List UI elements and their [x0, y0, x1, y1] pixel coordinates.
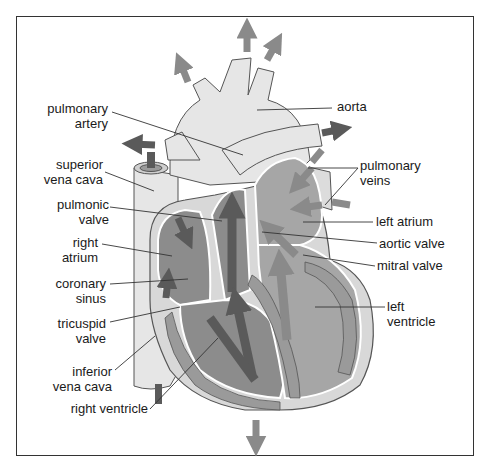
label-aortic-valve: aortic valve: [379, 237, 445, 252]
label-line: mitral valve: [377, 259, 443, 274]
label-line: tricuspid: [20, 317, 106, 332]
label-line: atrium: [20, 251, 98, 266]
label-right-atrium: right atrium: [20, 236, 98, 265]
label-aorta: aorta: [337, 100, 367, 115]
label-left-atrium: left atrium: [376, 215, 433, 230]
label-inferior-vena-cava: inferior vena cava: [20, 365, 112, 394]
label-left-ventricle: left ventricle: [387, 300, 435, 329]
label-pulmonic-valve: pulmonic valve: [20, 198, 109, 227]
label-line: vena cava: [20, 173, 103, 188]
label-tricuspid-valve: tricuspid valve: [20, 317, 106, 346]
label-line: left: [387, 300, 435, 315]
label-line: veins: [360, 174, 421, 189]
label-line: coronary: [20, 277, 106, 292]
label-line: inferior: [20, 365, 112, 380]
label-line: sinus: [20, 292, 106, 307]
label-right-ventricle: right ventricle: [20, 402, 148, 417]
label-pulmonary-artery: pulmonary artery: [20, 102, 108, 131]
label-line: vena cava: [20, 380, 112, 395]
label-line: artery: [20, 117, 108, 132]
label-line: pulmonary: [20, 102, 108, 117]
label-line: right ventricle: [20, 402, 148, 417]
label-superior-vena-cava: superior vena cava: [20, 158, 103, 187]
label-line: superior: [20, 158, 103, 173]
label-line: valve: [20, 332, 106, 347]
label-line: right: [20, 236, 98, 251]
label-coronary-sinus: coronary sinus: [20, 277, 106, 306]
label-line: ventricle: [387, 315, 435, 330]
label-pulmonary-veins: pulmonary veins: [360, 159, 421, 188]
label-line: aorta: [337, 100, 367, 115]
label-line: pulmonic: [20, 198, 109, 213]
label-line: valve: [20, 213, 109, 228]
label-mitral-valve: mitral valve: [377, 259, 443, 274]
label-line: pulmonary: [360, 159, 421, 174]
label-line: aortic valve: [379, 237, 445, 252]
label-line: left atrium: [376, 215, 433, 230]
